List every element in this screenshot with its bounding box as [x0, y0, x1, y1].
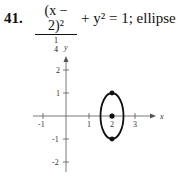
bottom-vertex-point: [110, 137, 115, 142]
y-ticks: 2 1 -1 -2: [52, 66, 69, 167]
svg-text:2: 2: [110, 120, 114, 129]
top-vertex-point: [110, 91, 115, 96]
center-point: [109, 113, 114, 118]
svg-text:1: 1: [56, 89, 60, 98]
x-axis-label: x: [159, 112, 164, 121]
x-axis-arrow: [150, 114, 156, 119]
svg-text:2: 2: [56, 66, 60, 75]
ellipse-graph: x y -1 1 2 3 2 1 -1 -2: [0, 0, 177, 176]
svg-text:-1: -1: [52, 135, 59, 144]
svg-text:-1: -1: [38, 120, 45, 129]
svg-text:1: 1: [87, 120, 91, 129]
y-axis-arrow: [64, 56, 69, 62]
svg-text:3: 3: [133, 120, 137, 129]
svg-text:-2: -2: [52, 158, 59, 167]
y-axis-label: y: [63, 43, 68, 52]
